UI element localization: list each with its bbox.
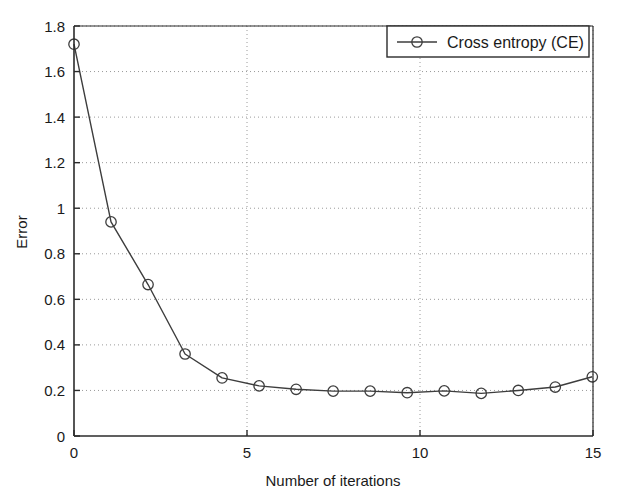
x-axis-title: Number of iterations xyxy=(265,472,400,489)
y-tick-label: 0.4 xyxy=(44,336,65,353)
chart-background xyxy=(0,0,622,502)
legend-entry-label: Cross entropy (CE) xyxy=(447,34,584,51)
y-tick-label: 0.2 xyxy=(44,382,65,399)
x-tick-label: 15 xyxy=(585,444,602,461)
chart-figure: 00.20.40.60.811.21.41.61.8 051015 Error … xyxy=(0,0,622,502)
x-tick-label: 10 xyxy=(412,444,429,461)
y-tick-label: 1.6 xyxy=(44,63,65,80)
y-axis-title: Error xyxy=(13,215,30,248)
x-tick-label: 0 xyxy=(70,444,78,461)
y-tick-label: 0 xyxy=(57,428,65,445)
y-tick-label: 1.8 xyxy=(44,18,65,35)
y-tick-label: 0.8 xyxy=(44,245,65,262)
x-tick-label: 5 xyxy=(243,444,251,461)
y-tick-label: 1.4 xyxy=(44,109,65,126)
error-vs-iterations-line-chart: 00.20.40.60.811.21.41.61.8 051015 Error … xyxy=(0,0,622,502)
y-tick-label: 1.2 xyxy=(44,154,65,171)
y-tick-label: 0.6 xyxy=(44,291,65,308)
y-tick-label: 1 xyxy=(57,200,65,217)
chart-legend[interactable]: Cross entropy (CE) xyxy=(387,26,589,57)
